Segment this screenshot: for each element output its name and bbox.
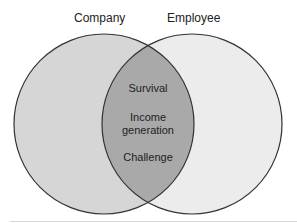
overlap-item-survival: Survival [108, 82, 188, 95]
divider [10, 221, 297, 222]
overlap-item-challenge: Challenge [108, 151, 188, 164]
company-label: Company [74, 11, 125, 25]
overlap-item-generation: generation [108, 124, 188, 137]
employee-label: Employee [167, 11, 220, 25]
overlap-item-income: Income [108, 111, 188, 124]
